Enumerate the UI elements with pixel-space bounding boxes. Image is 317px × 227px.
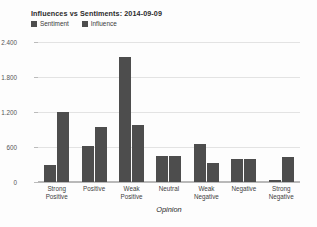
legend-label-sentiment: Sentiment — [40, 20, 69, 27]
legend-item-sentiment[interactable]: Sentiment — [31, 20, 69, 27]
y-axis-tick-label: 600 — [0, 144, 17, 151]
x-axis-tick-label: Neutral — [150, 185, 187, 201]
gridline — [38, 182, 300, 183]
chart-title: Influences vs Sentiments: 2014-09-09 — [31, 9, 162, 18]
x-axis-tick-label: WeakNegative — [188, 185, 225, 201]
bar-sentiment[interactable] — [44, 165, 56, 182]
x-axis-tick-label-line1: Negative — [225, 185, 262, 193]
x-axis-tick-label-line2: Positive — [38, 193, 75, 201]
x-axis-tick-label-line1: Strong — [263, 185, 300, 193]
bar-influence[interactable] — [169, 156, 181, 182]
x-axis-tick-label-line1: Weak — [188, 185, 225, 193]
bar-group — [113, 42, 150, 182]
x-axis-tick-label-line1: Neutral — [150, 185, 187, 193]
bar-group — [188, 42, 225, 182]
x-axis-tick-label: StrongPositive — [38, 185, 75, 201]
x-axis-tick-label-line2: Negative — [263, 193, 300, 201]
bar-groups — [38, 42, 300, 182]
x-axis-tick-labels: StrongPositivePositiveWeakPositiveNeutra… — [38, 185, 300, 201]
y-axis-tick-mark — [34, 182, 38, 183]
bar-sentiment[interactable] — [269, 180, 281, 182]
bar-influence[interactable] — [132, 125, 144, 182]
chart-container: Influences vs Sentiments: 2014-09-09 Sen… — [0, 0, 317, 227]
y-axis-tick-label: 2.400 — [0, 39, 17, 46]
x-axis-tick-label-line2: Negative — [188, 193, 225, 201]
y-axis-tick-label: 1.800 — [0, 74, 17, 81]
legend-swatch-influence — [82, 21, 88, 27]
bar-influence[interactable] — [244, 159, 256, 182]
bar-group — [75, 42, 112, 182]
bar-sentiment[interactable] — [156, 156, 168, 182]
legend-swatch-sentiment — [31, 21, 37, 27]
chart-legend: Sentiment Influence — [31, 20, 117, 27]
bar-sentiment[interactable] — [231, 159, 243, 182]
x-axis-tick-label: Negative — [225, 185, 262, 201]
bar-sentiment[interactable] — [82, 146, 94, 182]
x-axis-tick-label-line2: Positive — [113, 193, 150, 201]
legend-label-influence: Influence — [91, 20, 117, 27]
bar-influence[interactable] — [207, 163, 219, 182]
x-axis-tick-label: Positive — [75, 185, 112, 201]
x-axis-tick-label-line1: Weak — [113, 185, 150, 193]
bar-group — [38, 42, 75, 182]
bar-influence[interactable] — [282, 157, 294, 182]
bar-group — [225, 42, 262, 182]
y-axis-tick-label: 0 — [0, 179, 17, 186]
x-axis-tick-label: StrongNegative — [263, 185, 300, 201]
x-axis-tick-label-line1: Positive — [75, 185, 112, 193]
bar-sentiment[interactable] — [194, 144, 206, 182]
x-axis-tick-label-line1: Strong — [38, 185, 75, 193]
bar-group — [150, 42, 187, 182]
legend-item-influence[interactable]: Influence — [82, 20, 117, 27]
bar-group — [263, 42, 300, 182]
y-axis-tick-label: 1.200 — [0, 109, 17, 116]
bar-influence[interactable] — [57, 112, 69, 182]
x-axis-title: Opinion — [38, 205, 300, 214]
bar-influence[interactable] — [95, 127, 107, 182]
bar-sentiment[interactable] — [119, 57, 131, 182]
x-axis-tick-label: WeakPositive — [113, 185, 150, 201]
plot-area: 2.4001.8001.2006000 — [38, 42, 300, 182]
